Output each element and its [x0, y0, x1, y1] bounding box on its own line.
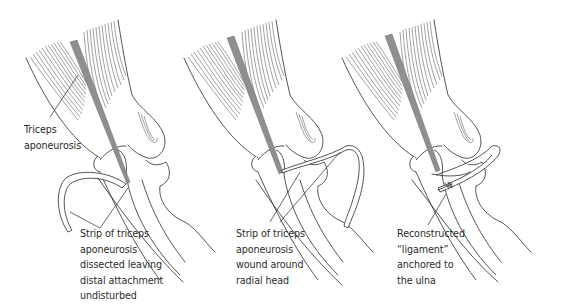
label-line: aponeurosis — [236, 242, 305, 258]
label-line: anchored to — [397, 257, 465, 273]
label-line: distal attachment — [80, 273, 163, 289]
wound-strip — [282, 146, 364, 228]
label-line: dissected leaving — [80, 257, 163, 273]
label-line: Triceps — [24, 122, 81, 138]
label-line: “ligament” — [397, 242, 465, 258]
strip-wound-label: Strip of triceps aponeurosis wound aroun… — [236, 226, 305, 288]
reconstructed-ligament — [436, 146, 500, 192]
label-line: radial head — [236, 273, 305, 289]
reconstructed-ligament-label: Reconstructed “ligament” anchored to the… — [397, 226, 465, 288]
triceps-aponeurosis-label: Triceps aponeurosis — [24, 122, 81, 153]
label-line: aponeurosis — [24, 138, 81, 154]
label-line: Reconstructed — [397, 226, 465, 242]
label-line: Strip of triceps — [236, 226, 305, 242]
strip-dissected-label: Strip of triceps aponeurosis dissected l… — [80, 226, 163, 304]
label-line: Strip of triceps — [80, 226, 163, 242]
label-line: the ulna — [397, 273, 465, 289]
label-line: undisturbed — [80, 288, 163, 304]
label-line: aponeurosis — [80, 242, 163, 258]
label-line: wound around — [236, 257, 305, 273]
